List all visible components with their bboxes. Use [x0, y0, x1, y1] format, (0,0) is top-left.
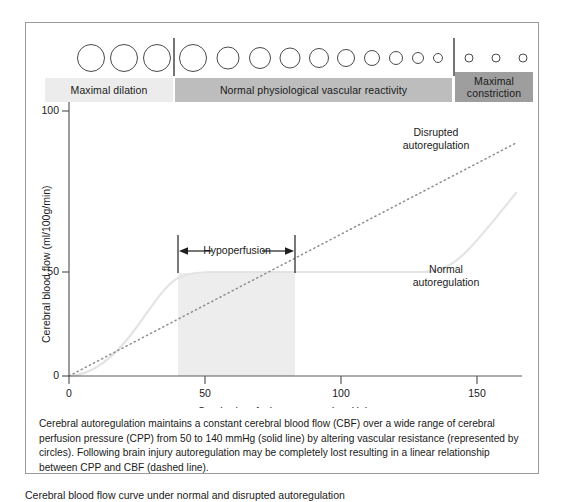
vessel-circle [217, 47, 239, 69]
normal-autoregulation-label: Normal autoregulation [392, 263, 500, 289]
vessel-circle [519, 54, 527, 62]
vessel-circle-row [78, 45, 528, 72]
x-tick-label-50: 50 [190, 387, 220, 399]
hypoperfusion-label: Hypoperfusion [191, 244, 283, 256]
x-tick-label-150: 150 [462, 387, 492, 399]
vessel-circle [413, 53, 424, 64]
disrupted-autoregulation-label: Disrupted autoregulation [382, 126, 490, 152]
x-tick-label-100: 100 [326, 387, 356, 399]
figure-panel: Maximal dilation Normal physiological va… [25, 22, 539, 474]
vessel-circle [338, 50, 355, 67]
hypoperfusion-arrowhead-right [285, 247, 294, 255]
band-maximal-constriction: Maximal constriction [455, 72, 533, 102]
vessel-circle [390, 52, 403, 65]
hypoperfusion-arrowhead-left [179, 247, 188, 255]
band-label-maximal-constriction: Maximal constriction [455, 75, 533, 99]
band-maximal-dilation: Maximal dilation [45, 78, 173, 102]
band-normal-reactivity: Normal physiological vascular reactivity [175, 78, 452, 102]
band-label-maximal-dilation: Maximal dilation [71, 84, 148, 96]
figure-root: Maximal dilation Normal physiological va… [0, 0, 562, 502]
vessel-circle [492, 54, 500, 62]
caption-box: Cerebral autoregulation maintains a cons… [25, 408, 539, 474]
vessel-circle [180, 45, 207, 72]
vessel-circle [144, 45, 171, 72]
vessel-circle [280, 48, 300, 68]
vessel-circle [365, 51, 380, 66]
band-label-normal-reactivity: Normal physiological vascular reactivity [220, 84, 407, 96]
vessel-circle [250, 48, 271, 69]
x-tick-label-0: 0 [54, 387, 84, 399]
vessel-circle [78, 45, 105, 72]
vessel-circle [111, 45, 138, 72]
caption-text: Cerebral autoregulation maintains a cons… [39, 417, 525, 475]
vessel-circle [465, 54, 473, 62]
y-tick-label-100: 100 [26, 104, 59, 116]
y-tick-label-0: 0 [26, 369, 59, 381]
y-axis-title: Cerebral blood flow (ml/100g/min) [40, 185, 52, 343]
vessel-circle [434, 54, 443, 63]
vessel-circle [310, 49, 329, 68]
figure-footer-caption: Cerebral blood flow curve under normal a… [25, 489, 539, 502]
